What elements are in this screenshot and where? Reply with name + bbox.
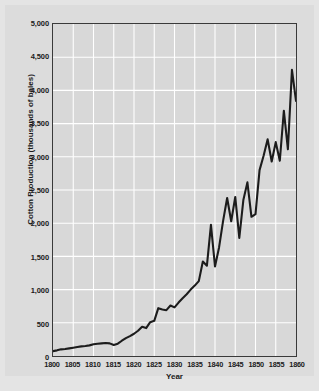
x-tick-label: 1800 bbox=[44, 360, 59, 369]
y-tick-label: 5,000 bbox=[3, 19, 49, 28]
x-tick-label: 1855 bbox=[269, 360, 284, 369]
x-tick-label: 1825 bbox=[146, 360, 161, 369]
x-tick-label: 1835 bbox=[187, 360, 202, 369]
chart-figure: 05001,0001,5002,0002,5003,0003,5004,0004… bbox=[0, 0, 319, 391]
x-tick-label: 1805 bbox=[65, 360, 80, 369]
plot-wrapper: 05001,0001,5002,0002,5003,0003,5004,0004… bbox=[0, 0, 319, 391]
y-tick-label: 1,000 bbox=[3, 286, 49, 295]
y-tick-label: 500 bbox=[3, 319, 49, 328]
cotton-production-line bbox=[53, 24, 296, 356]
x-tick-label: 1845 bbox=[228, 360, 243, 369]
y-axis-title: Cotton Production (thousands of bales) bbox=[26, 30, 35, 270]
x-axis-title: Year bbox=[52, 372, 297, 381]
x-tick-label: 1850 bbox=[248, 360, 263, 369]
y-tick-label: 0 bbox=[3, 353, 49, 362]
x-tick-label: 1840 bbox=[208, 360, 223, 369]
x-tick-label: 1830 bbox=[167, 360, 182, 369]
x-tick-label: 1810 bbox=[85, 360, 100, 369]
x-tick-label: 1860 bbox=[289, 360, 304, 369]
plot-area bbox=[52, 23, 297, 357]
y-axis-tick-labels: 05001,0001,5002,0002,5003,0003,5004,0004… bbox=[0, 0, 49, 391]
x-tick-label: 1820 bbox=[126, 360, 141, 369]
x-tick-label: 1815 bbox=[106, 360, 121, 369]
